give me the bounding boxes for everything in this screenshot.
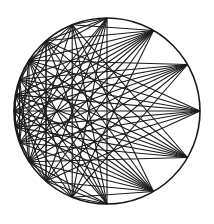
geometric-chord-diagram (0, 0, 214, 224)
chord-line (29, 60, 188, 64)
chord-lines (14, 18, 200, 204)
chord-star-svg (0, 0, 214, 224)
